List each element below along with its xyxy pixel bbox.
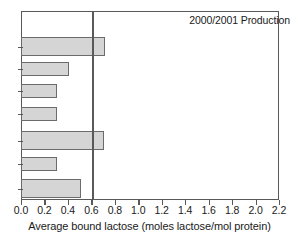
y-axis-tick — [18, 91, 23, 92]
y-axis-tick — [18, 164, 23, 165]
plot-frame — [21, 11, 279, 200]
bar — [21, 157, 57, 171]
y-axis-tick — [18, 114, 23, 115]
y-axis-tick — [18, 141, 23, 142]
chart-annotation: 2000/2001 Production — [189, 14, 290, 26]
y-axis-tick — [18, 69, 23, 70]
y-axis-tick — [18, 47, 23, 48]
bar — [21, 84, 57, 98]
x-axis-tick-label: 2.2 — [264, 204, 294, 217]
bar — [21, 179, 81, 198]
y-axis-tick — [18, 189, 23, 190]
reference-line — [92, 11, 93, 200]
bar — [21, 107, 57, 121]
bar — [21, 62, 69, 76]
bar-chart-figure: 2000/2001 Production Average bound lacto… — [0, 0, 299, 246]
x-axis-label: Average bound lactose (moles lactose/mol… — [0, 220, 299, 232]
plot-area — [22, 12, 278, 199]
